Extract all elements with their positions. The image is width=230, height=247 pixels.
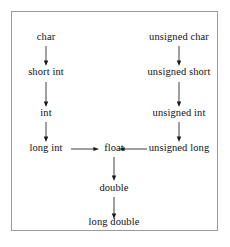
arrow-short_int-to-int bbox=[42, 82, 51, 107]
type-node-long_int: long int bbox=[29, 142, 62, 154]
arrow-unsigned_char-to-unsigned_short bbox=[175, 46, 184, 66]
arrow-char-to-short_int bbox=[42, 46, 51, 66]
diagram-frame: charshort intintlong intunsigned charuns… bbox=[11, 11, 218, 231]
arrow-int-to-long_int bbox=[42, 122, 51, 142]
arrow-float-to-double bbox=[110, 157, 119, 181]
type-node-unsigned_int: unsigned int bbox=[153, 107, 206, 119]
type-node-double: double bbox=[99, 182, 128, 194]
type-node-unsigned_short: unsigned short bbox=[148, 66, 211, 78]
type-node-short_int: short int bbox=[28, 66, 64, 78]
arrow-unsigned_long-to-float bbox=[119, 145, 147, 154]
type-node-unsigned_char: unsigned char bbox=[149, 31, 209, 43]
arrow-long_int-to-float bbox=[71, 145, 99, 154]
type-node-unsigned_long: unsigned long bbox=[149, 142, 210, 154]
arrow-double-to-long_double bbox=[110, 197, 119, 219]
type-node-int: int bbox=[40, 107, 51, 119]
type-node-char: char bbox=[37, 31, 55, 43]
arrow-unsigned_int-to-unsigned_long bbox=[175, 122, 184, 142]
arrow-unsigned_short-to-unsigned_int bbox=[175, 82, 184, 107]
type-conversion-diagram: charshort intintlong intunsigned charuns… bbox=[0, 0, 230, 247]
